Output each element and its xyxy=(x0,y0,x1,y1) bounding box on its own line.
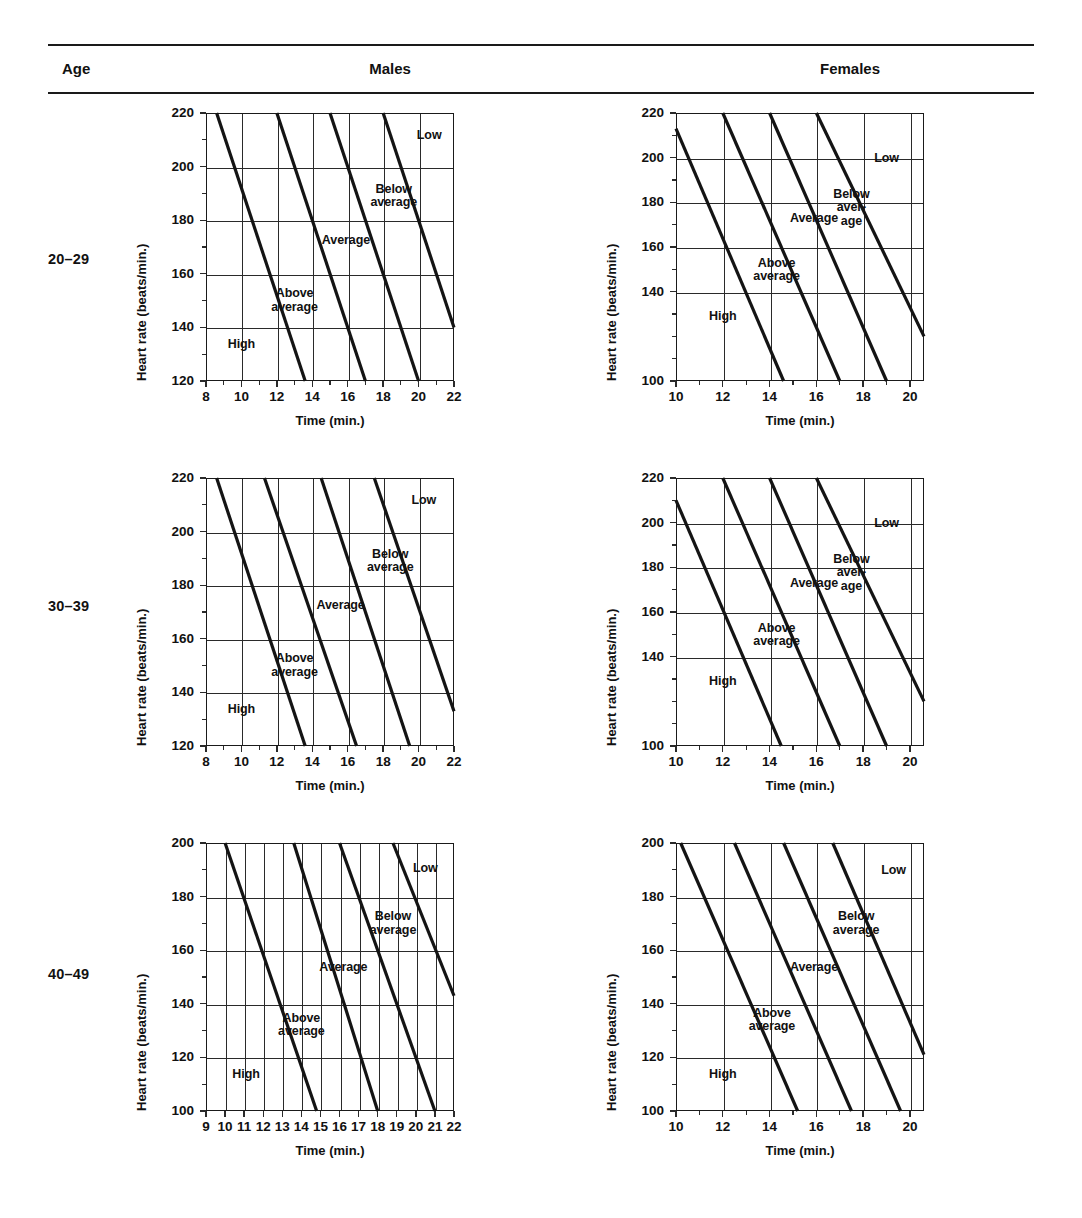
x-axis-minor-tick xyxy=(886,746,887,750)
x-axis-tick xyxy=(205,1111,206,1117)
x-axis-tick-label: 20 xyxy=(895,390,925,404)
zone-label: Below average xyxy=(354,183,434,210)
zone-label: Low xyxy=(847,517,927,531)
x-axis-minor-tick xyxy=(329,381,330,385)
zone-boundary-line xyxy=(723,478,840,746)
x-axis-tick xyxy=(377,1111,378,1117)
x-axis-tick xyxy=(276,381,277,387)
x-axis-tick-label: 16 xyxy=(801,390,831,404)
y-axis-minor-tick xyxy=(672,500,676,501)
x-axis-minor-tick xyxy=(436,746,437,750)
x-axis-minor-tick xyxy=(259,381,260,385)
y-axis-tick-label: 200 xyxy=(624,151,664,164)
y-axis-tick-label: 180 xyxy=(624,195,664,208)
y-axis-title: Heart rate (beats/min.) xyxy=(604,974,619,1111)
y-axis-tick xyxy=(200,950,206,951)
y-axis-tick-label: 200 xyxy=(624,836,664,849)
y-axis-minor-tick xyxy=(672,1084,676,1085)
x-axis-tick-label: 14 xyxy=(755,1120,785,1134)
y-axis-tick-label: 200 xyxy=(154,836,194,849)
boundary-lines xyxy=(580,830,1030,1145)
x-axis-tick xyxy=(769,381,770,387)
x-axis-tick xyxy=(862,1111,863,1117)
y-axis-tick-label: 200 xyxy=(154,160,194,173)
x-axis-minor-tick xyxy=(294,381,295,385)
y-axis-minor-tick xyxy=(202,193,206,194)
x-axis-minor-tick xyxy=(746,1111,747,1115)
y-axis-tick xyxy=(200,166,206,167)
zone-label: Below aver- age xyxy=(811,188,891,229)
y-axis-tick xyxy=(670,656,676,657)
x-axis-tick xyxy=(453,746,454,752)
x-axis-tick xyxy=(434,1111,435,1117)
y-axis-minor-tick xyxy=(202,869,206,870)
x-axis-title: Time (min.) xyxy=(676,778,924,793)
y-axis-tick-label: 160 xyxy=(154,943,194,956)
x-axis-tick-label: 16 xyxy=(801,755,831,769)
chart-males-40-49: 1001201401601802009101112131415161718192… xyxy=(110,830,560,1145)
y-axis-minor-tick xyxy=(672,976,676,977)
y-axis-tick xyxy=(670,522,676,523)
chart-males-30-39: 120140160180200220810121416182022Heart r… xyxy=(110,465,560,780)
x-axis-tick xyxy=(816,381,817,387)
x-axis-minor-tick xyxy=(746,381,747,385)
y-axis-tick-label: 140 xyxy=(154,320,194,333)
y-axis-minor-tick xyxy=(672,678,676,679)
x-axis-tick-label: 16 xyxy=(333,390,363,404)
chart-females-20-29: 100140160180200220101214161820Heart rate… xyxy=(580,100,1030,415)
x-axis-tick-label: 22 xyxy=(439,755,469,769)
header-rule-bottom xyxy=(48,92,1034,94)
x-axis-tick-label: 10 xyxy=(226,755,256,769)
x-axis-minor-tick xyxy=(792,1111,793,1115)
y-axis-tick xyxy=(670,246,676,247)
y-axis-minor-tick xyxy=(672,544,676,545)
x-axis-tick xyxy=(396,1111,397,1117)
x-axis-minor-tick xyxy=(294,746,295,750)
x-axis-tick xyxy=(263,1111,264,1117)
x-axis-tick xyxy=(675,746,676,752)
y-axis-title: Heart rate (beats/min.) xyxy=(604,244,619,381)
x-axis-minor-tick xyxy=(400,381,401,385)
y-axis-tick-label: 100 xyxy=(624,374,664,387)
y-axis-tick-label: 160 xyxy=(154,267,194,280)
zone-label: Average xyxy=(306,234,386,248)
x-axis-tick xyxy=(722,381,723,387)
column-header-females: Females xyxy=(700,58,1000,80)
y-axis-tick-label: 100 xyxy=(624,739,664,752)
y-axis-tick xyxy=(200,112,206,113)
y-axis-minor-tick xyxy=(672,869,676,870)
zone-label: Above average xyxy=(255,652,335,679)
y-axis-tick-label: 140 xyxy=(154,997,194,1010)
boundary-lines xyxy=(110,830,560,1145)
y-axis-tick-label: 200 xyxy=(624,516,664,529)
y-axis-tick-label: 220 xyxy=(154,106,194,119)
x-axis-tick xyxy=(909,381,910,387)
y-axis-tick-label: 180 xyxy=(154,213,194,226)
zone-label: High xyxy=(683,675,763,689)
zone-label: Below aver- age xyxy=(811,553,891,594)
x-axis-tick-label: 20 xyxy=(895,755,925,769)
zone-label: High xyxy=(201,703,281,717)
y-axis-minor-tick xyxy=(672,358,676,359)
y-axis-tick xyxy=(200,842,206,843)
zone-label: Below average xyxy=(353,910,433,937)
column-header-age: Age xyxy=(62,58,90,80)
x-axis-tick-label: 18 xyxy=(848,1120,878,1134)
y-axis-minor-tick xyxy=(202,246,206,247)
y-axis-tick-label: 220 xyxy=(624,106,664,119)
y-axis-minor-tick xyxy=(672,269,676,270)
zone-label: Above average xyxy=(737,622,817,649)
x-axis-title: Time (min.) xyxy=(206,778,454,793)
x-axis-tick-label: 22 xyxy=(439,1120,469,1134)
x-axis-tick xyxy=(312,746,313,752)
header-rule-top xyxy=(48,44,1034,46)
x-axis-tick-label: 12 xyxy=(262,755,292,769)
y-axis-tick-label: 120 xyxy=(154,374,194,387)
y-axis-tick xyxy=(200,1003,206,1004)
zone-label: Above average xyxy=(737,257,817,284)
y-axis-minor-tick xyxy=(672,1030,676,1031)
zone-boundary-line xyxy=(676,129,784,381)
y-axis-minor-tick xyxy=(202,976,206,977)
x-axis-tick-label: 20 xyxy=(404,755,434,769)
y-axis-tick xyxy=(670,157,676,158)
